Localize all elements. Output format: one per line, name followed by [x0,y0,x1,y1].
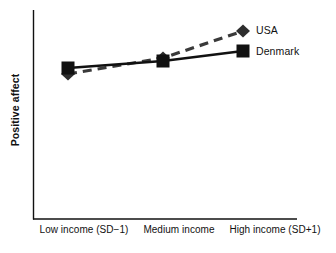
series-marker-denmark-high [237,45,250,58]
series-line-denmark [68,51,243,68]
x-tick-label-medium-income: Medium income [139,224,219,235]
legend-label-usa: USA [256,24,278,36]
plot-area [0,0,336,253]
series-line-usa [68,31,243,74]
series-marker-denmark-low [62,62,75,75]
series-marker-usa-high [236,25,250,38]
x-tick-label-high-income: High income (SD+1) [219,224,331,235]
series-marker-denmark-medium [157,55,170,68]
legend-label-denmark: Denmark [256,45,299,57]
x-tick-label-low-income: Low income (SD−1) [30,224,138,235]
chart-figure: Positive affect USA Denmark Low income (… [0,0,336,253]
